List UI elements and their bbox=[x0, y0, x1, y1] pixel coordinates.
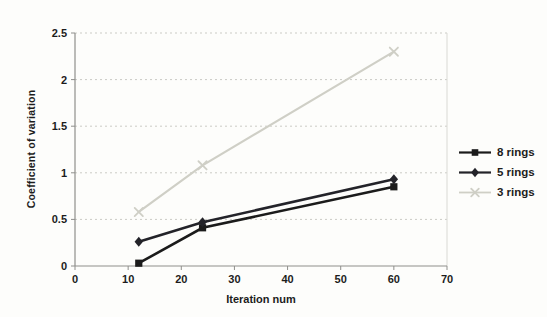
x-tick-label: 10 bbox=[122, 273, 134, 285]
series-line bbox=[139, 187, 394, 263]
tick-marks bbox=[71, 33, 447, 270]
series-3-rings bbox=[135, 48, 398, 217]
gridlines bbox=[75, 33, 447, 266]
legend-swatch-3-rings bbox=[458, 186, 492, 199]
y-tick-label: 1 bbox=[61, 167, 67, 179]
y-tick-label: 0 bbox=[61, 260, 67, 272]
axes bbox=[75, 33, 447, 266]
diamond-marker bbox=[390, 174, 398, 184]
legend-swatch-5-rings bbox=[458, 166, 492, 179]
legend-label: 5 rings bbox=[497, 166, 535, 178]
x-tick-label: 30 bbox=[228, 273, 240, 285]
series-8-rings bbox=[135, 183, 397, 267]
x-tick-label: 40 bbox=[281, 273, 293, 285]
legend-label: 3 rings bbox=[497, 186, 535, 198]
y-tick-label: 1.5 bbox=[52, 120, 67, 132]
y-tick-label: 2.5 bbox=[52, 27, 67, 39]
y-tick-label: 0.5 bbox=[52, 213, 67, 225]
diamond-marker bbox=[135, 237, 143, 247]
legend-item-5-rings: 5 rings bbox=[458, 163, 535, 181]
legend-label: 8 rings bbox=[497, 146, 535, 158]
x-tick-label: 0 bbox=[72, 273, 78, 285]
x-tick-label: 50 bbox=[335, 273, 347, 285]
legend-swatch-8-rings bbox=[458, 146, 492, 159]
legend-swatch-line bbox=[458, 186, 492, 199]
diamond-marker bbox=[471, 167, 479, 176]
legend-swatch-line bbox=[458, 146, 492, 159]
x-axis-title: Iteration num bbox=[226, 293, 296, 305]
x-tick-label: 70 bbox=[441, 273, 453, 285]
x-marker bbox=[198, 161, 206, 169]
x-marker bbox=[390, 48, 398, 56]
square-marker bbox=[472, 149, 479, 156]
legend: 8 rings 5 rings 3 rings bbox=[458, 143, 535, 201]
y-tick-label: 2 bbox=[61, 74, 67, 86]
x-marker bbox=[135, 208, 143, 216]
x-tick-label: 20 bbox=[175, 273, 187, 285]
tick-labels: 00.511.522.5010203040506070 bbox=[52, 27, 453, 285]
chart-figure: Coefficient of variation 00.511.522.5010… bbox=[0, 0, 547, 317]
legend-item-8-rings: 8 rings bbox=[458, 143, 535, 161]
legend-item-3-rings: 3 rings bbox=[458, 183, 535, 201]
legend-swatch-line bbox=[458, 166, 492, 179]
series-line bbox=[139, 179, 394, 241]
square-marker bbox=[135, 260, 142, 267]
x-tick-label: 60 bbox=[388, 273, 400, 285]
